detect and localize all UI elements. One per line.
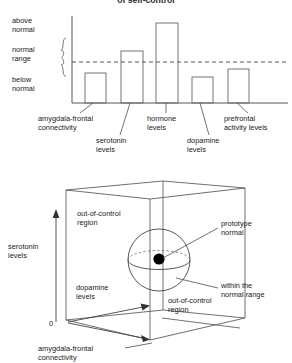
- region-label-out-of-control-upper: out-of-control region: [77, 209, 121, 227]
- leader-line-dopamine: [200, 103, 209, 135]
- svg-text:region: region: [77, 218, 98, 227]
- bar-serotonin-levels: [121, 51, 143, 103]
- leader-line-prefrontal: [237, 103, 248, 113]
- svg-text:levels: levels: [147, 123, 166, 132]
- svg-text:levels: levels: [8, 251, 27, 260]
- origin-label: 0: [49, 319, 53, 328]
- svg-text:out-of-control: out-of-control: [77, 209, 121, 218]
- leader-line-out-of-control-lower: [162, 318, 240, 328]
- svg-text:above: above: [12, 16, 32, 25]
- figure-container: of self-control above normal normal rang…: [0, 0, 292, 363]
- svg-text:serotonin: serotonin: [8, 242, 38, 251]
- region-label-out-of-control-lower: out-of-control region: [168, 296, 212, 314]
- svg-text:amygdala-frontal: amygdala-frontal: [38, 344, 93, 353]
- svg-text:levels: levels: [76, 292, 95, 301]
- svg-text:activity levels: activity levels: [224, 123, 268, 132]
- category-label-serotonin-levels: serotonin levels: [96, 136, 126, 154]
- svg-text:hormone: hormone: [147, 114, 176, 123]
- figure-title: of self-control: [117, 0, 174, 5]
- svg-text:amygdala-frontal: amygdala-frontal: [38, 114, 93, 123]
- category-label-amygdala-frontal-connectivity: amygdala-frontal connectivity: [38, 114, 93, 132]
- callout-label-within-normal-range: within the normal range: [220, 281, 265, 299]
- y-axis-label-above-normal: above normal: [12, 16, 35, 34]
- svg-text:serotonin: serotonin: [96, 136, 126, 145]
- dopamine-axis-line: [68, 307, 143, 322]
- leader-line-serotonin: [120, 103, 130, 135]
- svg-text:connectivity: connectivity: [38, 353, 77, 362]
- bar-chart: above normal normal range below normal: [12, 16, 288, 154]
- prototype-normal-dot: [153, 253, 164, 264]
- amygdala-axis-arrowhead: [141, 335, 150, 342]
- bar-amygdala-frontal-connectivity: [85, 73, 106, 103]
- dopamine-axis-arrowhead: [141, 304, 151, 311]
- svg-text:normal range: normal range: [221, 290, 265, 299]
- cube-top-face: [66, 181, 245, 199]
- bar-prefrontal-activity-levels: [228, 69, 249, 103]
- axis-label-serotonin-levels: serotonin levels: [8, 242, 38, 260]
- svg-text:region: region: [168, 305, 189, 314]
- serotonin-axis-arrowhead: [53, 209, 60, 218]
- leader-line-within-normal-range: [176, 278, 218, 288]
- leader-line-prototype-normal: [163, 228, 218, 258]
- category-label-prefrontal-activity-levels: prefrontal activity levels: [224, 114, 268, 132]
- cube-diagram: 0 serotonin levels dopamine levels amygd…: [8, 181, 265, 362]
- y-axis-label-normal-range: normal range: [12, 45, 35, 63]
- figure-svg: of self-control above normal normal rang…: [0, 0, 292, 363]
- y-axis-label-below-normal: below normal: [12, 75, 35, 93]
- svg-text:normal: normal: [12, 25, 35, 34]
- category-label-dopamine-levels: dopamine levels: [187, 136, 219, 154]
- svg-text:within the: within the: [220, 281, 252, 290]
- svg-text:range: range: [12, 54, 31, 63]
- axis-label-dopamine-levels: dopamine levels: [76, 283, 108, 301]
- category-label-hormone-levels: hormone levels: [147, 114, 176, 132]
- bar-hormone-levels: [156, 23, 178, 103]
- svg-text:levels: levels: [96, 145, 115, 154]
- svg-text:normal: normal: [12, 45, 35, 54]
- bar-dopamine-levels: [192, 77, 213, 103]
- normal-range-brace: [62, 38, 67, 77]
- svg-text:normal: normal: [221, 228, 244, 237]
- svg-text:levels: levels: [187, 145, 206, 154]
- leader-line-amygdala: [80, 103, 93, 113]
- svg-text:connectivity: connectivity: [38, 123, 77, 132]
- svg-text:normal: normal: [12, 84, 35, 93]
- svg-text:below: below: [12, 75, 32, 84]
- svg-text:out-of-control: out-of-control: [168, 296, 212, 305]
- svg-text:prefrontal: prefrontal: [224, 114, 256, 123]
- svg-text:prototype: prototype: [221, 219, 252, 228]
- leader-line-amygdala-axis-label: [125, 343, 152, 348]
- axis-label-amygdala-frontal-connectivity: amygdala-frontal connectivity: [38, 344, 93, 362]
- svg-text:dopamine: dopamine: [76, 283, 108, 292]
- callout-label-prototype-normal: prototype normal: [221, 219, 252, 237]
- figure-title-text: of self-control: [117, 0, 174, 5]
- svg-text:dopamine: dopamine: [187, 136, 219, 145]
- amygdala-axis-line: [68, 323, 143, 338]
